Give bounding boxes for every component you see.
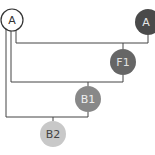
tree-diagram: A A F1 B1 B2	[0, 0, 155, 155]
node-b2: B2	[40, 121, 66, 147]
node-a-root: A	[1, 9, 23, 31]
edge-a-to-a-dark	[16, 30, 148, 43]
node-label: B1	[81, 93, 96, 106]
node-label: F1	[116, 56, 129, 69]
edge-f1-loop	[11, 31, 123, 82]
node-label: A	[8, 14, 16, 27]
edge-b1-loop	[6, 27, 88, 117]
node-f1: F1	[110, 49, 136, 75]
node-b1: B1	[75, 86, 101, 112]
node-label: A	[142, 16, 150, 29]
node-a-dark: A	[135, 9, 155, 35]
node-label: B2	[46, 128, 61, 141]
